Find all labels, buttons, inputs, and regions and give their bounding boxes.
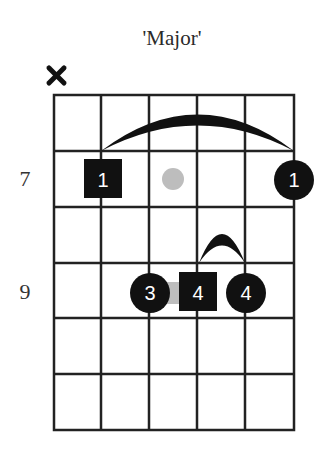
finger-number: 3 xyxy=(144,282,155,304)
finger-number: 4 xyxy=(192,282,203,304)
finger-number: 1 xyxy=(288,169,299,191)
barre-arc-fret-9 xyxy=(199,234,245,263)
ghost-dot-marker xyxy=(162,168,184,190)
finger-number: 1 xyxy=(97,169,108,191)
chord-diagram: 1 1 3 4 4 xyxy=(0,0,329,452)
muted-string-x-icon xyxy=(49,68,64,83)
fretboard-grid xyxy=(54,95,294,430)
finger-number: 4 xyxy=(240,282,251,304)
